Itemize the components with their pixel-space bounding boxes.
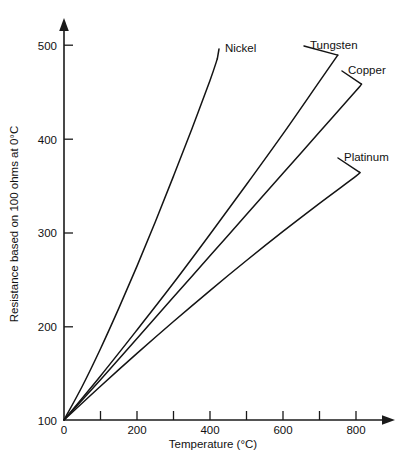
y-axis-tick-labels: 500 400 300 200 100 — [38, 40, 57, 427]
x-tick-label-600: 600 — [273, 424, 292, 436]
series-labels: Nickel Tungsten Copper Platinum — [225, 39, 389, 163]
data-curves — [64, 46, 361, 420]
x-tick-label-400: 400 — [200, 424, 219, 436]
x-axis-arrow-icon — [382, 415, 395, 425]
series-label-copper: Copper — [348, 64, 386, 76]
x-axis — [64, 415, 395, 425]
curve-copper — [64, 84, 361, 420]
curve-tungsten — [64, 55, 338, 420]
x-tick-label-0: 0 — [61, 424, 67, 436]
y-axis — [59, 18, 69, 420]
resistance-temperature-chart: 500 400 300 200 100 0 200 400 600 800 Te… — [0, 0, 411, 473]
leader-line-nickel — [217, 49, 219, 59]
x-axis-tick-labels: 0 200 400 600 800 — [61, 424, 366, 436]
y-axis-ticks — [64, 45, 73, 327]
curve-nickel — [64, 59, 217, 420]
x-tick-label-800: 800 — [346, 424, 365, 436]
y-axis-arrow-icon — [59, 18, 69, 31]
x-axis-ticks — [101, 411, 357, 420]
curve-platinum — [64, 172, 360, 420]
x-axis-title: Temperature (°C) — [169, 438, 257, 450]
y-tick-label-400: 400 — [38, 134, 57, 146]
chart-plot-area: 500 400 300 200 100 0 200 400 600 800 Te… — [0, 0, 411, 473]
x-tick-label-200: 200 — [127, 424, 146, 436]
y-tick-label-500: 500 — [38, 40, 57, 52]
y-tick-label-200: 200 — [38, 321, 57, 333]
y-tick-label-100: 100 — [38, 415, 57, 427]
y-axis-title: Resistance based on 100 ohms at 0°C — [8, 126, 20, 322]
series-label-tungsten: Tungsten — [310, 39, 358, 51]
y-tick-label-300: 300 — [38, 227, 57, 239]
series-label-nickel: Nickel — [225, 42, 256, 54]
series-label-platinum: Platinum — [344, 151, 389, 163]
